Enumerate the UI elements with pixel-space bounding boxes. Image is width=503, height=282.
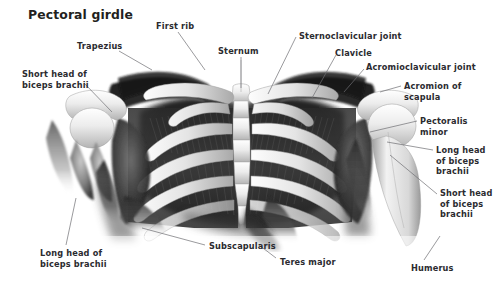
label-short-head-of-biceps-brachii-left: Short head of biceps brachii: [22, 69, 89, 90]
label-clavicle: Clavicle: [335, 48, 372, 59]
label-teres-major: Teres major: [280, 257, 336, 268]
label-humerus: Humerus: [411, 263, 454, 274]
label-long-head-of-biceps-brachii-left: Long head of biceps brachii: [40, 248, 107, 269]
anatomy-figure: Pectoral girdle First rib Trapezius Ster…: [0, 0, 503, 282]
label-sternum: Sternum: [218, 46, 259, 57]
label-subscapularis: Subscapularis: [209, 241, 276, 252]
label-long-head-of-biceps-brachii-right: Long head of biceps brachii: [436, 145, 486, 177]
label-acromioclavicular-joint: Acromioclavicular joint: [366, 62, 476, 73]
label-sternoclavicular-joint: Sternoclavicular joint: [299, 31, 402, 42]
label-pectoralis-minor: Pectoralis minor: [420, 116, 468, 137]
page-title: Pectoral girdle: [28, 7, 133, 22]
label-short-head-of-biceps-brachii-right: Short head of biceps brachii: [440, 188, 493, 220]
label-trapezius: Trapezius: [77, 41, 122, 52]
label-first-rib: First rib: [156, 21, 194, 32]
pectoral-girdle-illustration: [0, 0, 503, 282]
label-acromion-of-scapula: Acromion of scapula: [404, 81, 462, 102]
